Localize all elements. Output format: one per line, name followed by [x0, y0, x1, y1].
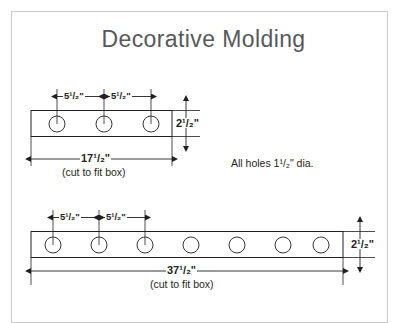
dimension-label-height-long: 2¹/₂" [350, 239, 375, 249]
dimension-label-spacing-1-short: 5¹/₂" [63, 91, 85, 101]
part-long-molding [31, 210, 375, 285]
hole [275, 237, 291, 253]
cut-note-long: (cut to fit box) [150, 278, 214, 290]
dimension-label-spacing-2-short: 5¹/₂" [110, 91, 132, 101]
cut-note-short: (cut to fit box) [62, 166, 126, 178]
hole [229, 237, 245, 253]
hole [183, 237, 199, 253]
hole-diameter-note: All holes 1¹/₂" dia. [231, 157, 314, 169]
dimension-label-length-long: 37¹/₂" [166, 265, 197, 275]
dimension-label-length-short: 17¹/₂" [80, 153, 111, 163]
dimension-label-spacing-2-long: 5¹/₂" [105, 212, 127, 222]
dimension-label-height-short: 2¹/₂" [175, 118, 200, 128]
hole [313, 237, 329, 253]
dimension-label-spacing-1-long: 5¹/₂" [59, 212, 81, 222]
